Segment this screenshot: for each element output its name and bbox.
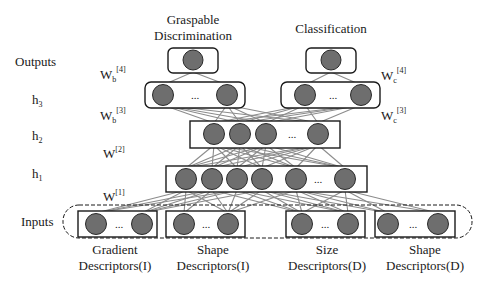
row-label-h2: h2 xyxy=(32,128,43,145)
node xyxy=(183,50,203,70)
row-label-inputs: Inputs xyxy=(21,214,54,229)
weight-label-wb4: Wb[4] xyxy=(100,65,126,84)
input-label-size-d-line1: Size xyxy=(316,242,339,257)
node xyxy=(338,214,359,235)
ellipsis: ... xyxy=(314,173,323,185)
node xyxy=(428,214,449,235)
output-title-graspable-line2: Discrimination xyxy=(154,28,232,43)
ellipsis: ... xyxy=(409,218,418,230)
input-label-gradient-line2: Descriptors(I) xyxy=(79,258,152,273)
ellipsis: ... xyxy=(288,128,297,140)
node xyxy=(218,214,239,235)
output-title-classification: Classification xyxy=(295,21,367,36)
weight-label-wb3: Wb[3] xyxy=(100,106,126,125)
node xyxy=(202,169,223,190)
node xyxy=(153,85,174,106)
weight-label-w2: W[2] xyxy=(103,145,125,161)
weight-label-wc4: Wc[4] xyxy=(381,66,407,85)
ellipsis: ... xyxy=(202,218,211,230)
input-label-gradient-line1: Gradient xyxy=(92,242,138,257)
node xyxy=(351,85,372,106)
ellipsis: ... xyxy=(321,218,330,230)
input-label-shape-i-line2: Descriptors(I) xyxy=(177,258,250,273)
node xyxy=(217,85,238,106)
row-label-h3: h3 xyxy=(32,92,43,109)
node xyxy=(321,50,341,70)
input-label-shape-i-line1: Shape xyxy=(197,242,229,257)
diagram-svg: ... ... ... ... ... ... ... ... Graspabl… xyxy=(0,0,490,289)
node xyxy=(132,214,153,235)
node xyxy=(252,169,273,190)
output-title-graspable-line1: Graspable xyxy=(167,12,220,27)
node xyxy=(256,124,277,145)
node xyxy=(176,169,197,190)
node xyxy=(335,169,356,190)
node xyxy=(378,214,399,235)
node xyxy=(308,124,329,145)
node xyxy=(86,214,107,235)
input-label-shape-d-line1: Shape xyxy=(409,242,441,257)
node xyxy=(174,214,195,235)
node xyxy=(295,85,316,106)
ellipsis: ... xyxy=(115,218,124,230)
weight-label-w1: W[1] xyxy=(103,188,125,204)
network-diagram: ... ... ... ... ... ... ... ... Graspabl… xyxy=(0,0,490,289)
row-label-h1: h1 xyxy=(32,166,43,183)
ellipsis: ... xyxy=(329,89,338,101)
row-label-outputs: Outputs xyxy=(15,54,56,69)
node xyxy=(286,169,307,190)
ellipsis: ... xyxy=(191,89,200,101)
node xyxy=(292,214,313,235)
weight-label-wc3: Wc[3] xyxy=(381,106,407,125)
input-label-size-d-line2: Descriptors(D) xyxy=(288,258,366,273)
node xyxy=(230,124,251,145)
input-label-shape-d-line2: Descriptors(D) xyxy=(386,258,464,273)
node xyxy=(227,169,248,190)
node xyxy=(204,124,225,145)
